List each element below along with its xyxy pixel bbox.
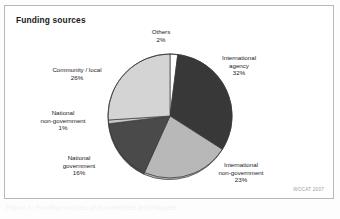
pie-label-others-name: Others (152, 28, 171, 35)
pie-label-national-non-government-percent: 1% (19, 124, 107, 132)
pie-label-national-government: National government 16% (43, 154, 115, 177)
pie-label-international-non-government-line2: non-government (193, 169, 289, 177)
pie-label-national-government-line1: National (68, 154, 91, 161)
pie-label-international-agency-percent: 32% (201, 69, 277, 77)
figure-caption: Figure 1: Funding sources of documented … (6, 204, 334, 211)
pie-label-national-non-government: National non-government 1% (19, 109, 107, 132)
pie-label-national-non-government-line1: National (52, 109, 75, 116)
pie-slice-community-local[interactable] (108, 54, 170, 120)
pie-label-national-non-government-line2: non-government (19, 117, 107, 125)
pie-label-community-local: Community / local 26% (31, 66, 123, 81)
figure-container: Funding sources Others 2% International … (0, 0, 340, 219)
pie-label-national-government-line2: government (43, 162, 115, 170)
pie-label-others-percent: 2% (133, 36, 189, 44)
pie-label-others: Others 2% (133, 28, 189, 43)
pie-label-international-non-government-percent: 23% (193, 176, 289, 184)
pie-label-international-agency: International agency 32% (201, 54, 277, 77)
pie-label-international-agency-line2: agency (201, 62, 277, 70)
pie-label-international-non-government: International non-government 23% (193, 161, 289, 184)
source-credit: WOCAT 2007 (293, 187, 324, 192)
pie-label-community-local-percent: 26% (31, 74, 123, 82)
pie-label-international-agency-line1: International (222, 54, 256, 61)
chart-panel: Funding sources Others 2% International … (4, 5, 334, 199)
pie-label-community-local-name: Community / local (52, 66, 101, 73)
pie-chart: Others 2% International agency 32% Inter… (5, 6, 335, 200)
pie-label-national-government-percent: 16% (43, 169, 115, 177)
pie-label-international-non-government-line1: International (224, 161, 258, 168)
